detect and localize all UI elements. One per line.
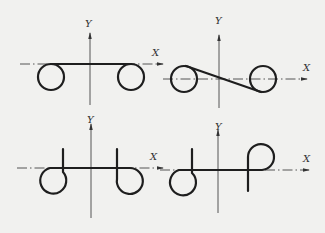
x-axis-label: X xyxy=(151,47,160,58)
panel-top-left: Y X xyxy=(20,18,163,105)
y-axis-label: Y xyxy=(87,114,95,125)
y-axis-label: Y xyxy=(215,121,223,132)
wire-shape xyxy=(40,149,143,194)
panel-top-right: Y X xyxy=(163,15,311,108)
diagram-canvas: Y X Y X Y X Y X xyxy=(0,0,325,233)
y-axis-label: Y xyxy=(85,18,93,29)
y-axis-label: Y xyxy=(215,15,223,26)
wire-shape xyxy=(38,64,144,90)
x-axis-label: X xyxy=(302,62,311,73)
x-axis-label: X xyxy=(302,153,311,164)
panel-bottom-left: Y X xyxy=(17,114,163,218)
diagram-svg: Y X Y X Y X Y X xyxy=(0,0,325,233)
wire-shape xyxy=(170,144,274,195)
x-axis-label: X xyxy=(149,151,158,162)
panel-bottom-right: Y X xyxy=(160,121,311,213)
